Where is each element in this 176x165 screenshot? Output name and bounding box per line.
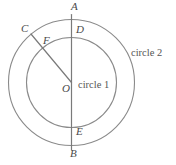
point-label-d: D bbox=[76, 24, 84, 35]
point-label-e: E bbox=[76, 126, 83, 137]
circle-2-label: circle 2 bbox=[131, 48, 162, 59]
circle-1-label: circle 1 bbox=[78, 80, 109, 91]
point-label-a: A bbox=[71, 1, 78, 12]
point-label-o: O bbox=[62, 83, 70, 94]
point-label-b: B bbox=[70, 148, 77, 159]
point-label-f: F bbox=[43, 35, 50, 46]
segment-radius-co bbox=[31, 34, 72, 83]
point-label-c: C bbox=[21, 23, 28, 34]
geometry-figure: A D C F O E B circle 1 circle 2 bbox=[0, 0, 176, 165]
